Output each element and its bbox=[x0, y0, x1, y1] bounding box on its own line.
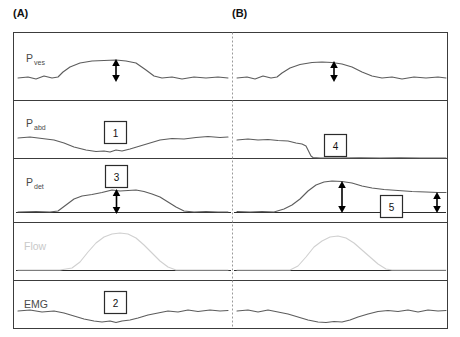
marker-5-label: 5 bbox=[389, 202, 395, 213]
channel-sublabel-pabd: abd bbox=[34, 124, 46, 131]
marker-1-label: 1 bbox=[113, 128, 119, 139]
marker-3-label: 3 bbox=[114, 172, 120, 183]
marker-4-label: 4 bbox=[333, 141, 339, 152]
trace-pves-panel-b bbox=[237, 62, 446, 79]
trace-emg-panel-b bbox=[237, 310, 446, 323]
urodynamics-figure: (A) (B) P ves P abd bbox=[0, 0, 460, 337]
marker-arrow-pves-b bbox=[330, 61, 338, 82]
channel-label-flow: Flow bbox=[24, 240, 47, 252]
marker-arrow-pves-a bbox=[112, 59, 120, 82]
marker-arrow-pdet-b-residual bbox=[433, 192, 441, 213]
panel-letter-a: (A) bbox=[13, 7, 29, 19]
trace-flow-panel-b bbox=[237, 236, 446, 270]
marker-2: 2 bbox=[105, 292, 127, 314]
channel-label-emg: EMG bbox=[24, 298, 48, 310]
channel-sublabel-pdet: det bbox=[34, 183, 44, 190]
channel-label-pabd: P bbox=[26, 117, 33, 129]
marker-2-label: 2 bbox=[113, 298, 119, 309]
marker-1: 1 bbox=[105, 122, 127, 144]
channel-label-pves: P bbox=[26, 52, 33, 64]
trace-pves-panel-a bbox=[18, 60, 228, 79]
trace-flow-panel-a bbox=[18, 233, 228, 270]
channel-sublabel-pves: ves bbox=[34, 59, 45, 66]
marker-arrow-pdet-b-peak bbox=[338, 181, 346, 213]
channel-label-pdet: P bbox=[26, 176, 33, 188]
figure-frame bbox=[14, 33, 448, 329]
marker-4: 4 bbox=[325, 135, 347, 157]
marker-3: 3 bbox=[106, 166, 128, 188]
marker-arrow-pdet-a bbox=[113, 189, 121, 214]
marker-5: 5 bbox=[381, 196, 403, 218]
trace-pdet-panel-a bbox=[18, 190, 228, 212]
panel-letter-b: (B) bbox=[232, 7, 248, 19]
